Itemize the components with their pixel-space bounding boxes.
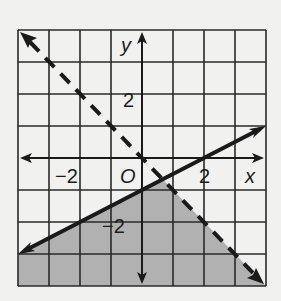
y-tick-2: 2 [123, 89, 134, 111]
x-tick-neg2: −2 [55, 165, 78, 187]
x-axis-label: x [244, 165, 256, 187]
coordinate-graph: y 2 −2 2 −2 O x [0, 0, 281, 301]
y-tick-neg2: −2 [102, 215, 125, 237]
y-axis-label: y [119, 34, 132, 56]
origin-label: O [120, 165, 136, 187]
x-tick-2: 2 [199, 165, 210, 187]
